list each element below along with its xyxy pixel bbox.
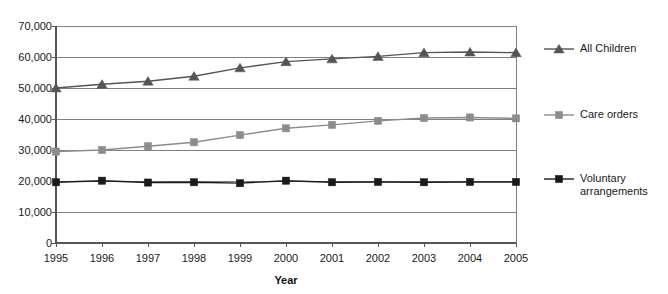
x-axis-tick-label: 2000 <box>263 253 309 264</box>
x-axis-tick-label: 1999 <box>217 253 263 264</box>
x-axis-tick-label: 1998 <box>171 253 217 264</box>
x-axis-tick-label: 2004 <box>447 253 493 264</box>
legend-triangle-marker-icon <box>544 43 574 55</box>
x-axis-tick-label: 2002 <box>355 253 401 264</box>
legend-item-label: Voluntary arrangements <box>580 172 648 198</box>
legend-item-label: Care orders <box>580 108 638 121</box>
y-axis-tick-label: 60,000 <box>0 52 52 63</box>
y-axis-tick-label: 10,000 <box>0 207 52 218</box>
legend-item-label: All Children <box>580 42 636 55</box>
legend-item: Care orders <box>544 108 638 121</box>
y-axis-tick-label: 20,000 <box>0 176 52 187</box>
legend-item: Voluntary arrangements <box>544 172 648 198</box>
y-axis-tick-label: 0 <box>0 238 52 249</box>
series-line <box>52 177 519 187</box>
x-axis-tick-label: 2003 <box>401 253 447 264</box>
series-line <box>52 114 519 155</box>
y-axis-tick-label: 30,000 <box>0 145 52 156</box>
legend-item: All Children <box>544 42 636 55</box>
axis-lines <box>52 26 516 247</box>
x-axis-tick-label: 2001 <box>309 253 355 264</box>
y-axis-tick-label: 50,000 <box>0 83 52 94</box>
legend-square-marker-icon <box>544 173 574 185</box>
series-line <box>51 47 521 92</box>
legend-square-marker-icon <box>544 109 574 121</box>
line-chart: 010,00020,00030,00040,00050,00060,00070,… <box>0 0 668 294</box>
x-axis-tick-label: 1997 <box>125 253 171 264</box>
y-axis-tick-label: 40,000 <box>0 114 52 125</box>
x-axis-title: Year <box>226 274 346 286</box>
x-axis-tick-label: 1995 <box>33 253 79 264</box>
y-axis-tick-label: 70,000 <box>0 21 52 32</box>
x-axis-tick-label: 2005 <box>493 253 539 264</box>
x-axis-tick-label: 1996 <box>79 253 125 264</box>
